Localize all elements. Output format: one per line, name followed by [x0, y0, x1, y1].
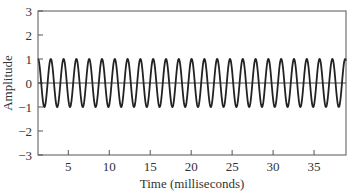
- chart: −3−2−10123 5101520253035 Time (milliseco…: [0, 0, 353, 193]
- x-tick-label: 5: [65, 159, 72, 174]
- x-tick-label: 30: [267, 159, 280, 174]
- y-tick-label: −2: [18, 124, 32, 139]
- y-tick-label: −1: [18, 100, 32, 115]
- y-tick-label: 0: [26, 76, 33, 91]
- y-tick-label: 2: [26, 28, 33, 43]
- x-tick-label: 10: [103, 159, 116, 174]
- x-tick-label: 20: [185, 159, 198, 174]
- y-axis-title: Amplitude: [0, 55, 15, 111]
- x-tick-label: 35: [308, 159, 321, 174]
- x-axis-title: Time (milliseconds): [140, 176, 245, 191]
- x-tick-label: 25: [226, 159, 239, 174]
- x-tick-label: 15: [144, 159, 157, 174]
- y-tick-label: 3: [26, 4, 33, 19]
- y-tick-label: 1: [26, 52, 33, 67]
- y-tick-label: −3: [18, 148, 32, 163]
- x-axis-ticks: 5101520253035: [65, 150, 320, 174]
